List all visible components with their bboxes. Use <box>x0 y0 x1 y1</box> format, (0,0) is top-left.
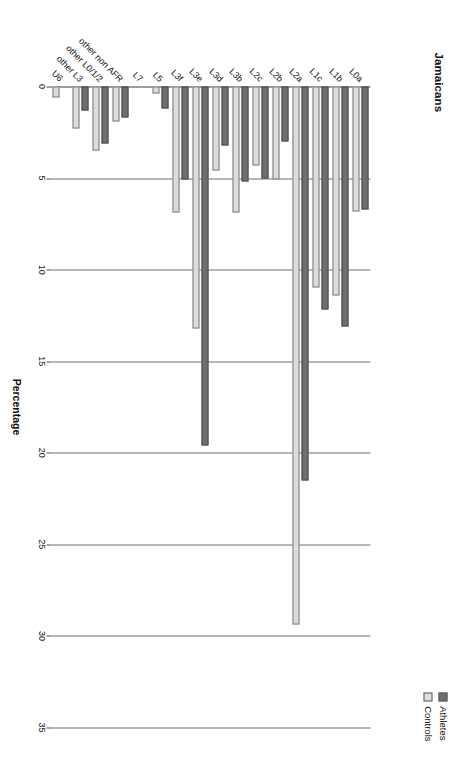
bar-controls-l3d <box>212 86 219 170</box>
category-label: L3b <box>227 66 245 84</box>
bar-controls-other-l3 <box>72 86 79 128</box>
category-label: L1b <box>327 66 345 84</box>
axis-tick-mark <box>46 452 50 453</box>
bar-athletes-l2a <box>301 86 308 480</box>
category-label: L1c <box>307 66 324 83</box>
bar-controls-l5 <box>152 86 159 93</box>
category-row: L2a <box>290 86 310 727</box>
category-label: L2c <box>247 66 264 83</box>
axis-tick-mark <box>46 544 50 545</box>
bar-athletes-l0a <box>361 86 368 209</box>
category-label: L7 <box>130 69 144 83</box>
bar-controls-l0a <box>352 86 359 211</box>
category-label: L5 <box>150 69 164 83</box>
legend-label-controls: Controls <box>422 706 433 741</box>
category-row: other non AFR <box>110 86 130 727</box>
axis-tick-label: 25 <box>36 539 46 549</box>
bar-athletes-other-non-afr <box>121 86 128 117</box>
bar-athletes-l2c <box>261 86 268 178</box>
category-row: L7 <box>130 86 150 727</box>
chart-legend: Athletes Controls <box>422 692 448 741</box>
axis-tick-label: 5 <box>36 175 46 180</box>
bar-controls-other-non-afr <box>112 86 119 121</box>
category-row: L2c <box>250 86 270 727</box>
bar-athletes-other-l3 <box>81 86 88 110</box>
value-axis-title: Percentage <box>10 86 22 727</box>
bar-controls-other-l0-1-2 <box>92 86 99 150</box>
bar-athletes-l3f <box>181 86 188 179</box>
bar-controls-l2a <box>292 86 299 624</box>
plot-area: Percentage 05101520253035L0aL1bL1cL2aL2b… <box>50 86 370 727</box>
axis-tick-label: 0 <box>36 83 46 88</box>
category-row: L5 <box>150 86 170 727</box>
axis-tick-label: 30 <box>36 630 46 640</box>
category-label: L3e <box>187 66 205 84</box>
category-row: other L3 <box>70 86 90 727</box>
category-row: U6 <box>50 86 70 727</box>
category-row: L0a <box>350 86 370 727</box>
category-label: L3d <box>207 66 225 84</box>
chart-title: Jamaicans <box>432 52 444 112</box>
category-row: L3e <box>190 86 210 727</box>
bar-chart-figure: Jamaicans Athletes Controls Percentage 0… <box>0 0 462 775</box>
axis-tick-mark <box>46 361 50 362</box>
bar-controls-l3b <box>232 86 239 212</box>
category-row: L3d <box>210 86 230 727</box>
axis-tick-label: 35 <box>36 722 46 732</box>
bar-athletes-l5 <box>161 86 168 108</box>
legend-item-controls: Controls <box>422 692 433 741</box>
bar-athletes-l3b <box>241 86 248 181</box>
axis-tick-mark <box>46 86 50 87</box>
category-row: other L0/1/2 <box>90 86 110 727</box>
category-row: L3b <box>230 86 250 727</box>
category-label: L3f <box>169 68 185 84</box>
rotated-figure-container: Jamaicans Athletes Controls Percentage 0… <box>0 0 462 775</box>
bar-controls-u6 <box>52 86 59 97</box>
category-label: L2a <box>287 66 305 84</box>
category-label: L2b <box>267 66 285 84</box>
legend-label-athletes: Athletes <box>437 706 448 740</box>
bar-controls-l1c <box>312 86 319 287</box>
bar-athletes-l1b <box>341 86 348 326</box>
axis-tick-mark <box>46 178 50 179</box>
category-row: L1c <box>310 86 330 727</box>
axis-tick-label: 10 <box>36 264 46 274</box>
axis-tick-mark <box>46 635 50 636</box>
bar-controls-l3f <box>172 86 179 212</box>
category-label: U6 <box>49 68 64 83</box>
legend-item-athletes: Athletes <box>437 692 448 741</box>
bar-athletes-l1c <box>321 86 328 309</box>
axis-tick-mark <box>46 727 50 728</box>
bar-athletes-l2b <box>281 86 288 141</box>
bar-controls-l2c <box>252 86 259 165</box>
axis-tick-mark <box>46 269 50 270</box>
legend-swatch-controls <box>423 692 432 701</box>
bar-controls-l3e <box>192 86 199 328</box>
axis-tick-label: 15 <box>36 356 46 366</box>
legend-swatch-athletes <box>438 692 447 701</box>
bar-athletes-l3d <box>221 86 228 145</box>
axis-tick-label: 20 <box>36 447 46 457</box>
category-row: L2b <box>270 86 290 727</box>
category-row: L3f <box>170 86 190 727</box>
bar-athletes-l3e <box>201 86 208 445</box>
category-row: L1b <box>330 86 350 727</box>
bar-controls-l2b <box>272 86 279 179</box>
bar-athletes-other-l0-1-2 <box>101 86 108 143</box>
category-label: L0a <box>347 66 365 84</box>
bar-controls-l1b <box>332 86 339 295</box>
